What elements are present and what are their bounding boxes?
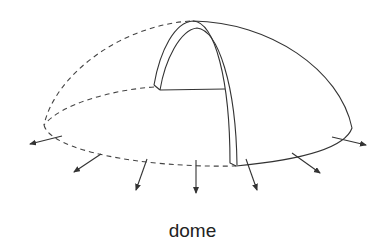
base-back-edge: [44, 87, 154, 125]
base-front-dashed-edge: [44, 125, 236, 166]
arrow-6: [292, 153, 320, 173]
cut-floor-line: [160, 89, 225, 90]
arch-base-cap: [154, 85, 160, 90]
outward-thrust-arrows: [30, 136, 366, 193]
arrow-3: [136, 159, 147, 190]
dome-illustration: [0, 0, 385, 246]
dome-diagram: [0, 0, 385, 246]
arrow-1: [30, 136, 62, 144]
arch-outer-edge: [154, 21, 236, 166]
arrow-2: [74, 154, 101, 172]
dome-visible-outline: [193, 21, 352, 166]
figure-caption: dome: [0, 220, 385, 242]
arch-inner-edge: [160, 28, 237, 165]
